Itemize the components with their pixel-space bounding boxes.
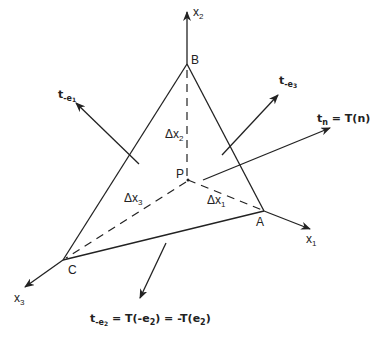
vector-t-e2-arrow: [140, 243, 166, 298]
edge-BC: [63, 64, 187, 260]
internal-dashed-edges: [66, 70, 262, 258]
axis-label-x3: x3: [14, 291, 25, 307]
axis-x3-arrow: [25, 260, 63, 287]
traction-vectors: [76, 95, 330, 298]
axis-x1-arrow: [264, 211, 310, 229]
axes: [25, 12, 310, 287]
vertex-label-P: P: [176, 167, 184, 181]
vertex-label-A: A: [256, 215, 264, 229]
vector-label-t-e3: t-e3: [279, 74, 297, 89]
area-label-dx2: Δx2: [165, 127, 184, 143]
tetrahedron-edges: [63, 64, 264, 260]
area-label-dx3: Δx3: [124, 191, 143, 207]
axis-label-x2: x2: [193, 5, 204, 21]
edge-CA: [63, 211, 264, 260]
vertex-label-B: B: [191, 53, 199, 67]
axis-label-x1: x1: [306, 232, 317, 248]
vertex-label-C: C: [68, 263, 77, 277]
tetrahedron-diagram: B A C P x2 x1 x3 Δx2 Δx3 Δx1 t-e1 t-e3 t…: [0, 0, 373, 338]
vector-t-e3-arrow: [222, 95, 278, 155]
vector-label-t-e1: t-e1: [58, 88, 76, 103]
edge-BA: [187, 64, 264, 211]
vector-label-tn: tn = T(n): [317, 112, 370, 127]
point-P: [187, 179, 190, 182]
area-label-dx1: Δx1: [207, 193, 226, 209]
vector-t-e1-arrow: [76, 103, 139, 164]
vector-label-t-e2: t-e2 = T(-e2) = -T(e2): [90, 312, 211, 327]
